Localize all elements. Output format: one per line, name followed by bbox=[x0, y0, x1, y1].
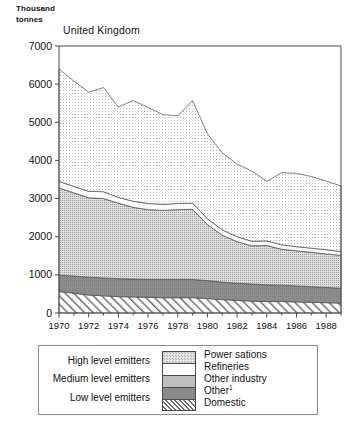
y-tick-label: 4000 bbox=[29, 154, 53, 166]
x-tick-label: 1984 bbox=[256, 320, 277, 331]
legend-key-power-sations: Power sations bbox=[204, 349, 267, 361]
legend-key-label: Domestic bbox=[204, 397, 246, 408]
legend-key-label: Other bbox=[204, 385, 229, 396]
legend-key-footnote: 1 bbox=[229, 384, 233, 391]
legend-swatch-domestic bbox=[162, 399, 196, 411]
legend-swatch-column bbox=[162, 351, 196, 411]
legend-key-other-industry: Other industry bbox=[204, 373, 267, 385]
x-tick-label: 1976 bbox=[137, 320, 158, 331]
y-tick-label: 1000 bbox=[29, 268, 53, 280]
y-tick-label: 3000 bbox=[29, 192, 53, 204]
chart-legend: High level emitters Medium level emitter… bbox=[38, 345, 318, 415]
x-tick-label: 1988 bbox=[316, 320, 337, 331]
chart-bands bbox=[59, 69, 341, 313]
y-tick-label: 7000 bbox=[29, 40, 53, 52]
x-tick-label: 1986 bbox=[286, 320, 307, 331]
y-tick-label: 6000 bbox=[29, 78, 53, 90]
legend-swatch-other-industry bbox=[162, 375, 196, 387]
y-tick-label: 2000 bbox=[29, 230, 53, 242]
x-tick-label: 1974 bbox=[108, 320, 129, 331]
x-tick-label: 1978 bbox=[167, 320, 188, 331]
legend-key-domestic: Domestic bbox=[204, 397, 267, 409]
legend-key-label: Refineries bbox=[204, 361, 249, 372]
legend-key-column: Power sationsRefineriesOther industryOth… bbox=[204, 349, 267, 409]
legend-key-refineries: Refineries bbox=[204, 361, 267, 373]
legend-level-high: High level emitters bbox=[68, 355, 150, 366]
legend-level-medium: Medium level emitters bbox=[53, 373, 150, 384]
x-tick-label: 1982 bbox=[227, 320, 248, 331]
chart-page: Thousand tonnes United Kingdom bbox=[0, 0, 350, 426]
stacked-area-chart: 01000200030004000500060007000 1970197219… bbox=[0, 0, 350, 340]
y-tick-label: 0 bbox=[46, 307, 52, 319]
legend-key-label: Power sations bbox=[204, 349, 267, 360]
y-tick-label: 5000 bbox=[29, 116, 53, 128]
legend-key-label: Other industry bbox=[204, 373, 267, 384]
legend-level-low: Low level emitters bbox=[70, 392, 150, 403]
legend-swatch-power-sations bbox=[162, 351, 196, 363]
x-tick-label: 1970 bbox=[48, 320, 69, 331]
y-tick-labels: 01000200030004000500060007000 bbox=[29, 40, 53, 319]
plot-area: 01000200030004000500060007000 1970197219… bbox=[0, 0, 350, 340]
legend-swatch-other bbox=[162, 387, 196, 399]
x-tick-labels: 1970197219741976197819801982198419861988 bbox=[48, 320, 336, 331]
legend-key-other: Other1 bbox=[204, 385, 267, 397]
x-tick-label: 1980 bbox=[197, 320, 218, 331]
legend-swatch-refineries bbox=[162, 363, 196, 375]
x-tick-label: 1972 bbox=[78, 320, 99, 331]
